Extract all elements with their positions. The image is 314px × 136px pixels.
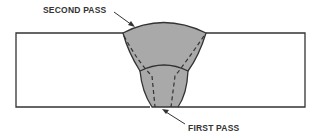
first-pass-label: FIRST PASS bbox=[188, 123, 239, 133]
second-pass-leader bbox=[114, 12, 132, 25]
second-pass-bead bbox=[123, 23, 206, 72]
first-pass-leader bbox=[166, 112, 185, 124]
second-pass-label: SECOND PASS bbox=[43, 5, 106, 15]
weld-diagram bbox=[0, 0, 314, 136]
second-pass-arrowhead bbox=[128, 21, 135, 27]
